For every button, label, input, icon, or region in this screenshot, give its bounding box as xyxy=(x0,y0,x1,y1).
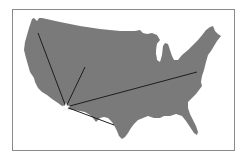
us-landmass xyxy=(24,18,221,139)
us-map xyxy=(0,0,249,164)
